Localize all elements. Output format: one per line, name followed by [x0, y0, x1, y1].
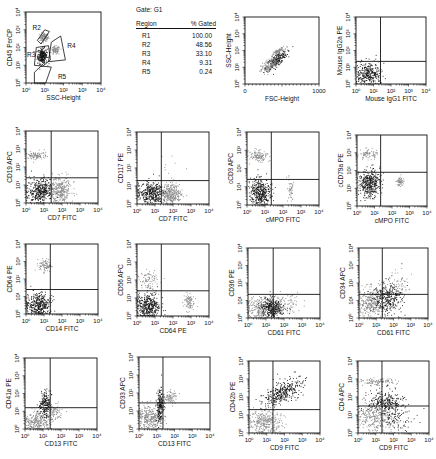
data-point — [54, 46, 55, 47]
data-point — [36, 193, 37, 194]
data-point — [397, 422, 398, 423]
data-point — [188, 299, 189, 300]
data-point — [378, 380, 379, 381]
data-point — [408, 427, 409, 428]
data-point — [39, 186, 40, 187]
data-point — [54, 191, 55, 192]
data-point — [161, 387, 162, 388]
data-point — [361, 185, 362, 186]
data-point — [168, 191, 169, 192]
data-point — [139, 310, 140, 311]
data-point — [368, 157, 369, 158]
data-point — [402, 298, 403, 299]
data-point — [56, 193, 57, 194]
data-point — [268, 306, 269, 307]
data-point — [164, 167, 165, 168]
data-point — [270, 400, 271, 401]
data-point — [386, 310, 387, 311]
data-point — [156, 199, 157, 200]
data-point — [394, 286, 395, 287]
data-point — [34, 424, 35, 425]
data-point — [156, 192, 157, 193]
data-point — [266, 173, 267, 174]
data-point — [258, 432, 259, 433]
data-point — [184, 295, 185, 296]
data-point — [158, 411, 159, 412]
data-point — [371, 81, 372, 82]
data-point — [357, 65, 358, 66]
data-point — [38, 424, 39, 425]
data-point — [371, 310, 372, 311]
data-point — [41, 299, 42, 300]
data-point — [287, 313, 288, 314]
data-point — [382, 378, 383, 379]
data-point — [298, 376, 299, 377]
data-point — [393, 308, 394, 309]
data-point — [369, 76, 370, 77]
gate-region-r5[interactable] — [34, 66, 51, 83]
data-point — [54, 48, 55, 49]
data-point — [165, 164, 166, 165]
region-name: R1 — [136, 31, 150, 40]
data-point — [61, 193, 62, 194]
data-point — [276, 382, 277, 383]
data-point — [370, 390, 371, 391]
data-point — [256, 203, 257, 204]
data-point — [379, 75, 380, 76]
data-point — [358, 81, 359, 82]
data-point — [43, 187, 44, 188]
data-point — [366, 170, 367, 171]
data-point — [368, 154, 369, 155]
data-point — [40, 60, 41, 61]
data-point — [266, 195, 267, 196]
data-point — [144, 275, 145, 276]
data-point — [374, 304, 375, 305]
data-point — [255, 301, 256, 302]
data-point — [155, 306, 156, 307]
data-point — [388, 417, 389, 418]
data-point — [383, 308, 384, 309]
data-point — [42, 56, 43, 57]
data-point — [52, 48, 53, 49]
data-point — [371, 417, 372, 418]
data-point — [260, 200, 261, 201]
data-point — [371, 292, 372, 293]
data-point — [396, 284, 397, 285]
data-point — [40, 304, 41, 305]
data-point — [59, 187, 60, 188]
data-point — [266, 316, 267, 317]
data-point — [376, 418, 377, 419]
data-point — [380, 392, 381, 393]
data-point — [359, 423, 360, 424]
data-point — [288, 389, 289, 390]
data-point — [280, 49, 281, 50]
data-point — [154, 292, 155, 293]
data-point — [157, 188, 158, 189]
data-point — [373, 412, 374, 413]
data-point — [268, 405, 269, 406]
data-point — [146, 269, 147, 270]
data-point — [393, 304, 394, 305]
data-point — [45, 155, 46, 156]
data-point — [47, 38, 48, 39]
data-point — [265, 154, 266, 155]
data-point — [47, 39, 48, 40]
data-point — [144, 422, 145, 423]
data-point — [266, 302, 267, 303]
data-point — [387, 385, 388, 386]
data-point — [252, 417, 253, 418]
data-point — [250, 415, 251, 416]
data-point — [35, 155, 36, 156]
data-point — [264, 301, 265, 302]
data-point — [152, 295, 153, 296]
data-point — [380, 412, 381, 413]
data-point — [154, 197, 155, 198]
data-point — [270, 313, 271, 314]
data-point — [148, 313, 149, 314]
data-point — [274, 304, 275, 305]
data-point — [397, 184, 398, 185]
data-point — [274, 306, 275, 307]
data-point — [158, 294, 159, 295]
data-point — [259, 191, 260, 192]
data-point — [287, 380, 288, 381]
